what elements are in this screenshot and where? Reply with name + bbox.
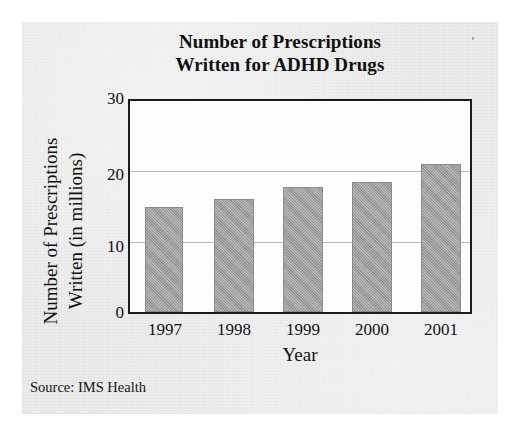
bar-1997 — [145, 207, 183, 313]
plot-area — [128, 99, 472, 314]
x-axis-title: Year — [128, 344, 472, 366]
x-tick-label-1997: 1997 — [130, 320, 200, 340]
x-tick-label-2001: 2001 — [406, 320, 476, 340]
x-tick-label-2000: 2000 — [337, 320, 407, 340]
y-axis-title: Number of Prescriptions Written (in mill… — [38, 106, 88, 356]
chart-title-line-1: Number of Prescriptions — [100, 30, 460, 53]
y-tick-label-10: 10 — [88, 237, 124, 257]
y-tick-label-0: 0 — [88, 303, 124, 323]
chart-title: Number of Prescriptions Written for ADHD… — [100, 30, 460, 76]
y-axis-title-line-2: Written (in millions) — [63, 106, 88, 356]
y-tick-label-20: 20 — [88, 165, 124, 185]
x-tick-label-1999: 1999 — [268, 320, 338, 340]
source-note: Source: IMS Health — [30, 379, 146, 396]
bar-1999 — [283, 187, 323, 312]
bar-2001 — [421, 164, 461, 312]
y-tick-label-30: 30 — [88, 89, 124, 109]
bar-1998 — [214, 199, 254, 312]
bar-2000 — [352, 182, 392, 312]
gridline-20 — [130, 171, 470, 172]
x-tick-label-1998: 1998 — [199, 320, 269, 340]
chart-title-line-2: Written for ADHD Drugs — [100, 53, 460, 76]
scan-speck — [472, 37, 474, 40]
y-axis-title-line-1: Number of Prescriptions — [38, 106, 63, 356]
